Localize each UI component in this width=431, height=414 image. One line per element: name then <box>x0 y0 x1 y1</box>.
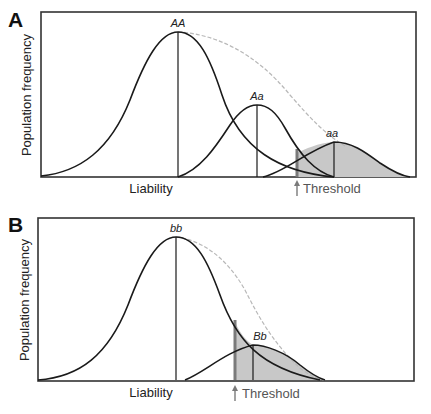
panel-a: A AA Aa aa Population frequency Liabilit… <box>8 8 416 196</box>
panel-a-threshold-arrow-icon <box>294 180 300 196</box>
panel-a-letter: A <box>8 8 23 31</box>
panel-b: B bb Bb Population frequency Liability T… <box>8 213 414 401</box>
panel-a-curve-AA <box>41 32 334 177</box>
panel-b-threshold-label: Threshold <box>242 386 300 401</box>
panel-a-threshold-label: Threshold <box>303 181 361 196</box>
panel-a-label-aa: aa <box>326 127 338 139</box>
panel-a-xlabel: Liability <box>129 181 173 196</box>
panel-a-ylabel: Population frequency <box>19 33 34 156</box>
panel-b-xlabel: Liability <box>129 385 173 400</box>
panel-b-label-Bb: Bb <box>253 330 266 342</box>
liability-threshold-diagram: A AA Aa aa Population frequency Liabilit… <box>0 0 431 414</box>
panel-a-threshold-line <box>296 149 299 177</box>
panel-a-label-AA: AA <box>170 17 186 29</box>
panel-b-affected-shade <box>235 322 325 380</box>
panel-b-threshold-arrow-icon <box>232 385 238 401</box>
panel-a-label-Aa: Aa <box>249 90 263 102</box>
panel-b-ylabel: Population frequency <box>17 238 32 361</box>
panel-b-label-bb: bb <box>170 222 182 234</box>
panel-b-letter: B <box>8 213 23 236</box>
